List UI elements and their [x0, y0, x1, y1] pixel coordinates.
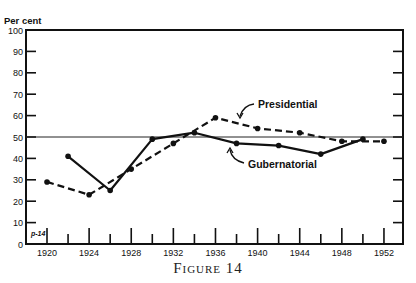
data-point-presidential [44, 179, 50, 185]
data-point-gubernatorial [107, 188, 113, 194]
y-tick-label: 10 [13, 218, 23, 228]
data-point-presidential [381, 138, 387, 144]
data-point-presidential [213, 115, 219, 121]
data-point-gubernatorial [150, 136, 156, 142]
data-point-presidential [339, 138, 345, 144]
data-point-gubernatorial [360, 136, 366, 142]
data-point-gubernatorial [65, 153, 71, 159]
y-tick-label: 30 [13, 175, 23, 185]
annotation-group: PresidentialGubernatorial [227, 98, 318, 170]
label-presidential: Presidential [258, 98, 318, 110]
corner-annotation: p-14 [30, 230, 46, 238]
x-tick-label: 1940 [248, 248, 268, 258]
x-tick-label: 1932 [163, 248, 183, 258]
series-line-presidential [47, 118, 384, 195]
data-point-gubernatorial [276, 143, 282, 149]
data-point-presidential [255, 126, 261, 132]
data-point-presidential [171, 141, 177, 147]
x-tick-label: 1952 [374, 248, 394, 258]
label-gubernatorial: Gubernatorial [248, 158, 317, 170]
y-tick-label: 0 [18, 240, 23, 250]
y-tick-label: 50 [13, 133, 23, 143]
x-tick-label: 1924 [79, 248, 99, 258]
y-tick-label: 80 [13, 68, 23, 78]
x-tick-label: 1944 [290, 248, 310, 258]
figure-caption: Figure 14 [0, 260, 416, 277]
y-axis-title: Per cent [4, 15, 42, 26]
y-tick-label: 60 [13, 111, 23, 121]
line-chart: 0102030405060708090100Per cent1920192419… [0, 0, 416, 283]
x-tick-label: 1928 [121, 248, 141, 258]
series-group [44, 115, 387, 198]
x-tick-label: 1948 [332, 248, 352, 258]
y-tick-label: 40 [13, 154, 23, 164]
x-tick-label: 1920 [37, 248, 57, 258]
x-tick-label: 1936 [205, 248, 225, 258]
data-point-presidential [86, 192, 92, 198]
y-tick-label: 20 [13, 197, 23, 207]
y-tick-label: 70 [13, 90, 23, 100]
data-point-presidential [297, 130, 303, 136]
y-tick-label: 90 [13, 47, 23, 57]
data-point-gubernatorial [234, 141, 240, 147]
data-point-gubernatorial [318, 151, 324, 157]
y-tick-label: 100 [8, 26, 23, 36]
data-point-gubernatorial [192, 130, 198, 136]
